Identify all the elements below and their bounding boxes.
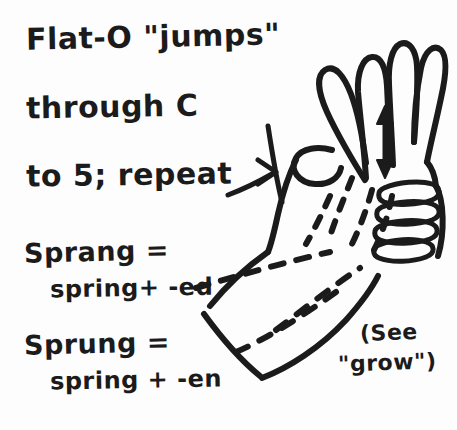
motion-trail-dashes (306, 178, 392, 250)
motion-trail-lower (196, 252, 360, 352)
fist-knuckle-row-3 (375, 221, 437, 244)
note-page: Flat-O "jumps" through C to 5; repeat Sp… (0, 0, 457, 430)
fist-knuckle-row-4 (374, 240, 433, 262)
finger-curled-loop (294, 148, 341, 184)
palm-edge-left (268, 160, 296, 252)
gloss-derivation-sprung: spring + -en (50, 367, 222, 394)
instruction-line-3: to 5; repeat (26, 159, 233, 192)
leader-line-arrowhead (258, 160, 276, 184)
instruction-line-2: through C (26, 90, 199, 123)
fist-top-edge (427, 162, 436, 186)
finger-ring (414, 48, 446, 162)
forearm-upper-edge (210, 252, 268, 306)
instruction-line-1: Flat-O "jumps" (26, 19, 281, 54)
gloss-derivation-sprang: spring+ -ed (50, 275, 214, 302)
finger-middle (389, 43, 417, 165)
motion-arrow-head-down (377, 160, 393, 178)
cross-reference-line-1: (See (360, 321, 418, 345)
leader-line-stroke (268, 126, 282, 202)
fist-knuckle-row-1 (379, 182, 439, 205)
finger-index (358, 57, 390, 178)
cross-reference-line-2: "grow") (338, 350, 437, 375)
motion-arrow-head-up (377, 106, 393, 124)
fist-knuckle-row-2 (377, 202, 439, 225)
leader-line-arrow-tail (228, 174, 272, 195)
finger-thumb-upper (319, 68, 366, 180)
gloss-headword-sprung: Sprung = (24, 328, 171, 359)
fist-outer-edge (436, 186, 443, 256)
gloss-headword-sprang: Sprang = (24, 236, 170, 267)
